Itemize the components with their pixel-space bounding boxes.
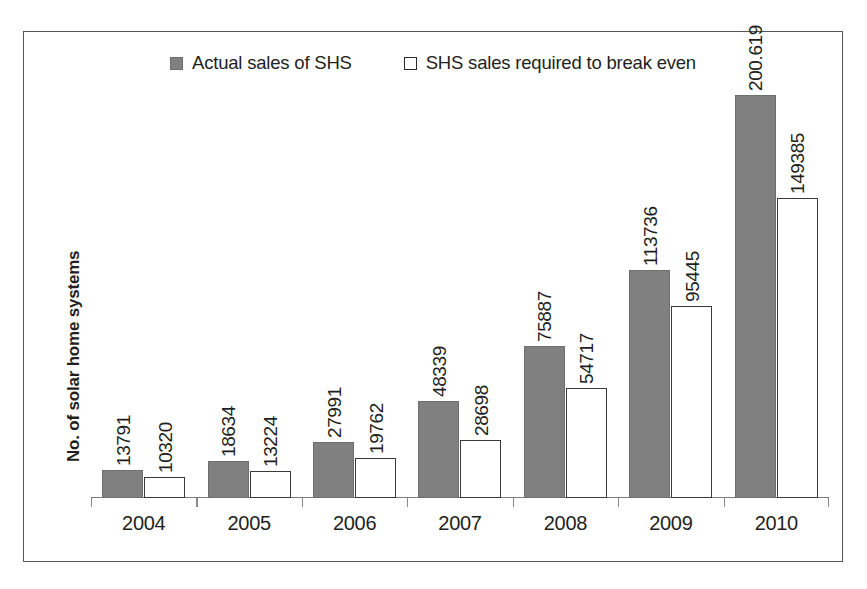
x-axis-tick <box>302 498 303 507</box>
x-axis-label-2010: 2010 <box>724 512 829 535</box>
bar-value-label: 13791 <box>113 415 132 466</box>
bar-group: 1863413224 <box>196 46 301 498</box>
x-axis-label-2005: 2005 <box>196 512 301 535</box>
bar-rect-actual[interactable] <box>418 401 459 498</box>
bar-value-label: 27991 <box>324 387 343 438</box>
x-axis-label-2008: 2008 <box>513 512 618 535</box>
bar-value-label: 75887 <box>535 291 554 342</box>
x-axis-tick <box>724 498 725 507</box>
bar-rect-actual[interactable] <box>313 442 354 498</box>
x-axis-tick-labels: 2004200520062007200820092010 <box>91 512 829 552</box>
x-axis-label-2007: 2007 <box>407 512 512 535</box>
x-axis-tick <box>91 498 92 507</box>
bar-value-label: 95445 <box>682 251 701 302</box>
bar-group: 200.619149385 <box>724 46 829 498</box>
bar-break-even[interactable]: 149385 <box>777 46 818 498</box>
bar-rect-actual[interactable] <box>735 95 776 498</box>
bar-value-label: 149385 <box>788 133 807 194</box>
x-axis-label-2009: 2009 <box>618 512 723 535</box>
chart-frame: Actual sales of SHS SHS sales required t… <box>23 31 843 562</box>
bar-value-label: 113736 <box>640 206 659 266</box>
bar-break-even[interactable]: 19762 <box>355 46 396 498</box>
bar-rect-required[interactable] <box>144 477 185 498</box>
bar-rect-required[interactable] <box>777 198 818 498</box>
bar-value-label: 19762 <box>366 403 385 454</box>
bar-break-even[interactable]: 10320 <box>144 46 185 498</box>
bar-actual-sales[interactable]: 113736 <box>629 46 670 498</box>
y-axis-title: No. of solar home systems <box>64 182 84 462</box>
bar-break-even[interactable]: 13224 <box>250 46 291 498</box>
x-axis-tick <box>196 498 197 507</box>
bar-break-even[interactable]: 28698 <box>460 46 501 498</box>
bar-pair: 11373695445 <box>618 46 723 498</box>
bar-rect-actual[interactable] <box>208 461 249 498</box>
y-axis-title-wrap: No. of solar home systems <box>50 32 90 563</box>
bar-actual-sales[interactable]: 200.619 <box>735 46 776 498</box>
bar-pair: 200.619149385 <box>724 46 829 498</box>
bar-value-label: 18634 <box>219 406 238 457</box>
x-axis-tick <box>513 498 514 507</box>
bar-rect-required[interactable] <box>671 306 712 498</box>
bar-value-label: 48339 <box>429 346 448 397</box>
bar-value-label: 200.619 <box>746 25 765 91</box>
bar-break-even[interactable]: 95445 <box>671 46 712 498</box>
bar-actual-sales[interactable]: 13791 <box>102 46 143 498</box>
x-axis-label-2004: 2004 <box>91 512 196 535</box>
bar-group: 7588754717 <box>513 46 618 498</box>
bar-rect-required[interactable] <box>460 440 501 498</box>
plot-area: 1379110320186341322427991197624833928698… <box>91 46 829 498</box>
bar-rect-actual[interactable] <box>102 470 143 498</box>
x-axis-tick <box>407 498 408 507</box>
bar-rect-actual[interactable] <box>629 270 670 498</box>
bar-break-even[interactable]: 54717 <box>566 46 607 498</box>
bar-rect-required[interactable] <box>250 471 291 498</box>
bar-group: 4833928698 <box>407 46 512 498</box>
x-axis-tick <box>618 498 619 507</box>
bar-group: 11373695445 <box>618 46 723 498</box>
bar-value-label: 13224 <box>261 417 280 468</box>
bar-actual-sales[interactable]: 75887 <box>524 46 565 498</box>
bar-pair: 7588754717 <box>513 46 618 498</box>
bar-value-label: 28698 <box>471 386 490 437</box>
bar-actual-sales[interactable]: 18634 <box>208 46 249 498</box>
bar-pair: 2799119762 <box>302 46 407 498</box>
x-axis-label-2006: 2006 <box>302 512 407 535</box>
bar-rect-required[interactable] <box>355 458 396 498</box>
bar-actual-sales[interactable]: 48339 <box>418 46 459 498</box>
bar-value-label: 54717 <box>577 333 596 384</box>
bar-rect-actual[interactable] <box>524 346 565 498</box>
bar-pair: 4833928698 <box>407 46 512 498</box>
x-axis-tick <box>828 498 829 507</box>
bar-pair: 1379110320 <box>91 46 196 498</box>
bar-rect-required[interactable] <box>566 388 607 498</box>
bar-pair: 1863413224 <box>196 46 301 498</box>
bar-group: 1379110320 <box>91 46 196 498</box>
bar-value-label: 10320 <box>155 422 174 473</box>
bar-actual-sales[interactable]: 27991 <box>313 46 354 498</box>
bar-group: 2799119762 <box>302 46 407 498</box>
